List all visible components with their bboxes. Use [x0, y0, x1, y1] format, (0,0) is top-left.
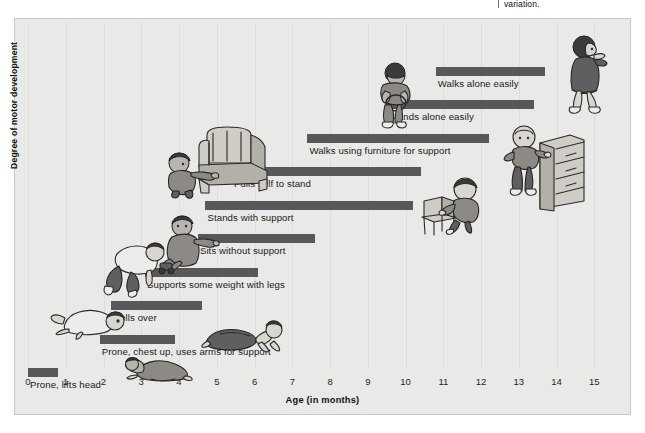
x-tick-11: 11	[438, 376, 448, 387]
x-tick-9: 9	[365, 376, 370, 387]
child-walking	[564, 35, 612, 115]
toddler-pushing-chair	[439, 177, 487, 235]
x-tick-5: 5	[214, 376, 219, 387]
plot-area: Prone, lifts headProne, chest up, uses a…	[15, 19, 630, 414]
bar-0	[28, 368, 58, 377]
chart-panel: Prone, lifts headProne, chest up, uses a…	[14, 18, 631, 415]
bar-5	[205, 201, 413, 210]
gridline-month-9	[368, 23, 369, 368]
caption-rule	[498, 0, 499, 8]
x-tick-12: 12	[476, 376, 487, 387]
cut-off-caption-fragment: variation.	[498, 0, 540, 9]
x-tick-13: 13	[514, 376, 525, 387]
x-tick-6: 6	[252, 376, 257, 387]
infant-stands-holding-armchair	[163, 151, 219, 199]
gridline-month-7	[292, 23, 293, 368]
chart-screenshot: variation. Prone, lifts headProne, chest…	[0, 0, 645, 433]
caption-fragment-text: variation.	[504, 0, 540, 9]
gridline-month-8	[330, 23, 331, 368]
bar-9	[436, 67, 545, 76]
infant-rolls-over	[49, 302, 131, 340]
x-axis-title: Age (in months)	[15, 395, 630, 405]
x-tick-8: 8	[327, 376, 332, 387]
bar-label-7: Walks using furniture for support	[309, 145, 450, 156]
x-tick-10: 10	[400, 376, 411, 387]
y-axis-title: Degree of motor development	[9, 42, 19, 169]
infant-sits-with-toy	[158, 213, 220, 275]
x-tick-7: 7	[290, 376, 295, 387]
gridline-month-0	[28, 23, 29, 368]
x-tick-14: 14	[551, 376, 562, 387]
x-tick-1: 1	[63, 376, 68, 387]
bar-label-5: Stands with support	[207, 212, 293, 223]
infant-prone-lifts-head	[115, 351, 193, 385]
bar-label-3: Supports some weight with legs	[147, 279, 285, 290]
infant-prone-chest-up	[200, 314, 286, 354]
x-tick-15: 15	[589, 376, 600, 387]
x-tick-2: 2	[101, 376, 106, 387]
x-tick-0: 0	[25, 376, 30, 387]
toddler-standing-alone	[371, 63, 421, 129]
toddler-cruising-dresser	[502, 125, 552, 197]
bar-label-9: Walks alone easily	[438, 78, 519, 89]
bar-7	[307, 134, 488, 143]
